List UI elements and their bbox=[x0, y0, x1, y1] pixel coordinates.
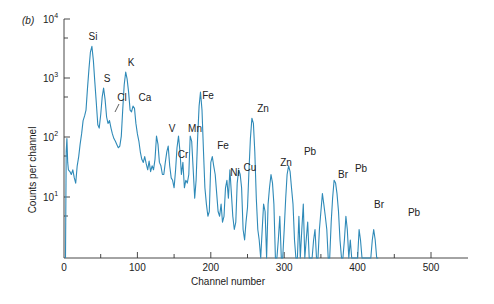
peak-label: Zn bbox=[257, 103, 269, 114]
peak-label: V bbox=[169, 123, 176, 134]
peak-label: Pb bbox=[408, 207, 421, 218]
x-tick-label: 300 bbox=[276, 262, 293, 273]
peak-label: Fe bbox=[217, 140, 229, 151]
peak-label: S bbox=[104, 73, 111, 84]
x-tick-label: 500 bbox=[423, 262, 440, 273]
cl-leader-line bbox=[115, 104, 119, 112]
y-tick-label: 103 bbox=[43, 71, 58, 84]
peak-label: Br bbox=[338, 169, 349, 180]
y-tick-label: 101 bbox=[43, 190, 58, 203]
peak-label: Zn bbox=[280, 157, 292, 168]
peak-labels: SiSClKCaVCrMnFeFeNiCuZnZnPbBrPbBrPb bbox=[89, 31, 421, 218]
peak-label: Pb bbox=[355, 163, 368, 174]
peak-label: Cl bbox=[117, 92, 126, 103]
x-ticks bbox=[101, 252, 431, 258]
peak-label: Fe bbox=[202, 90, 214, 101]
peak-label: Br bbox=[374, 199, 385, 210]
peak-label: Mn bbox=[188, 123, 202, 134]
peak-label: Ca bbox=[139, 92, 152, 103]
peak-label: Pb bbox=[304, 146, 317, 157]
peak-label: Cu bbox=[244, 162, 257, 173]
x-tick-label: 100 bbox=[129, 262, 146, 273]
peak-label: Cr bbox=[178, 149, 189, 160]
y-tick-label: 102 bbox=[43, 130, 58, 143]
spectrum-chart: (b) 104 103 102 101 Counts per channel 0… bbox=[0, 0, 494, 304]
x-axis-label: Channel number bbox=[191, 276, 266, 287]
y-axis-label: Counts per channel bbox=[27, 127, 38, 214]
peak-label: K bbox=[128, 57, 135, 68]
x-tick-label: 400 bbox=[349, 262, 366, 273]
x-tick-label: 200 bbox=[202, 262, 219, 273]
y-tick-label: 104 bbox=[43, 12, 58, 25]
panel-label: (b) bbox=[22, 15, 34, 26]
spectrum-line bbox=[66, 46, 379, 258]
x-tick-label: 0 bbox=[61, 262, 67, 273]
peak-label: Si bbox=[89, 31, 98, 42]
peak-label: Ni bbox=[230, 167, 239, 178]
